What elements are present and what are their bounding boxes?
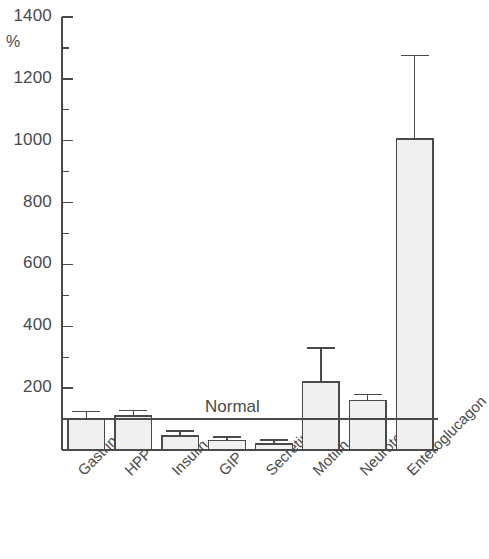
bar-gastrin [68, 419, 105, 450]
bar-insulin [162, 436, 199, 450]
error-bar-gastrin [72, 411, 100, 419]
bar-enteroglucagon [396, 139, 433, 450]
bar-neurotensin [349, 401, 386, 450]
bar-gip [209, 441, 246, 450]
bar-hpp [115, 416, 152, 450]
error-bar-enteroglucagon [401, 56, 429, 140]
error-bar-hpp [119, 410, 147, 416]
error-bar-neurotensin [354, 394, 382, 400]
error-bar-motilin [307, 348, 335, 382]
error-bar-insulin [166, 431, 194, 436]
bar-secretin [256, 444, 293, 450]
bar-motilin [303, 382, 340, 450]
